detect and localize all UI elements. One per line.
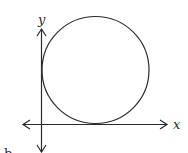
figure-caption-label: b (4, 146, 12, 153)
x-axis-label: x (173, 117, 181, 132)
coordinate-diagram: y x b (0, 0, 188, 153)
y-axis-label: y (37, 12, 46, 27)
y-axis (37, 29, 46, 152)
circle (42, 17, 149, 124)
x-axis (23, 120, 167, 129)
